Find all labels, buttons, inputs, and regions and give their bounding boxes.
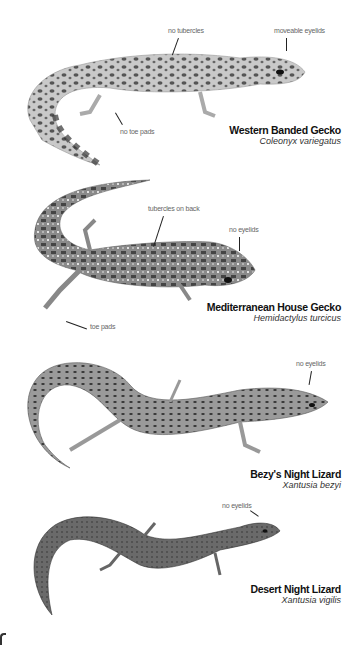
callout-label: no toe pads bbox=[120, 128, 154, 135]
scientific-name: Xantusia vigilis bbox=[250, 595, 341, 606]
callout-label: toe pads bbox=[90, 323, 115, 330]
callout-leader bbox=[286, 38, 287, 51]
callout-label: no eyelids bbox=[222, 502, 252, 509]
species-label: Western Banded Gecko Coleonyx variegatus bbox=[229, 124, 341, 147]
scientific-name: Coleonyx variegatus bbox=[229, 136, 341, 147]
species-mediterranean-house-gecko: tubercles on back no eyelids toe pads Me… bbox=[0, 170, 351, 340]
callout-label: tubercles on back bbox=[148, 205, 199, 212]
callout-label: no eyelids bbox=[296, 360, 326, 367]
common-name: Mediterranean House Gecko bbox=[207, 301, 341, 313]
desert-night-lizard-illustration bbox=[0, 495, 351, 633]
common-name: Western Banded Gecko bbox=[229, 124, 341, 136]
species-label: Desert Night Lizard Xantusia vigilis bbox=[250, 583, 341, 606]
common-name: Desert Night Lizard bbox=[250, 583, 341, 595]
species-label: Bezy's Night Lizard Xantusia bezyi bbox=[250, 468, 341, 491]
species-western-banded-gecko: no tubercles moveable eyelids no toe pad… bbox=[0, 0, 351, 170]
species-bezys-night-lizard: no eyelids Bezy's Night Lizard Xantusia … bbox=[0, 340, 351, 495]
species-desert-night-lizard: no eyelids Desert Night Lizard Xantusia … bbox=[0, 495, 351, 633]
species-label: Mediterranean House Gecko Hemidactylus t… bbox=[207, 301, 341, 324]
callout-leader bbox=[239, 237, 240, 251]
callout-label: moveable eyelids bbox=[274, 27, 325, 34]
callout-label: no tubercles bbox=[168, 27, 204, 34]
callout-label: no eyelids bbox=[229, 226, 259, 233]
page-edge-fragment bbox=[0, 633, 6, 645]
common-name: Bezy's Night Lizard bbox=[250, 468, 341, 480]
scientific-name: Hemidactylus turcicus bbox=[207, 313, 341, 324]
scientific-name: Xantusia bezyi bbox=[250, 480, 341, 491]
